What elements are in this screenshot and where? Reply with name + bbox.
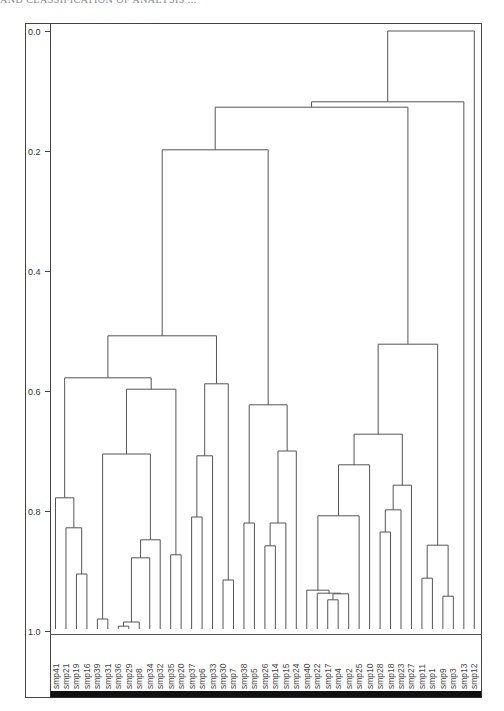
rug-bar [51,691,482,698]
leaf-label: smp36 [113,663,123,689]
leaf-label: smp12 [469,663,479,689]
leaf-label: smp9 [438,668,448,689]
dendrogram-chart: 0.00.20.40.60.81.0 smp41smp21smp19smp16s… [0,0,504,711]
merge-n17 [108,336,217,384]
merge-n13 [192,517,202,629]
leaf-label: smp27 [406,663,416,689]
merge-n16 [205,384,229,580]
leaf-label: smp6 [197,668,207,689]
dendrogram-tree [56,31,475,629]
leaf-label: smp7 [228,668,238,689]
leaf-label: smp14 [270,663,280,689]
leaf-label: smp38 [239,663,249,689]
leaf-label: smp30 [218,663,228,689]
merge-n14 [197,456,213,629]
merge-n29 [339,465,370,629]
y-tick-label: 0.2 [28,147,41,157]
merge-n34 [422,578,432,629]
leaf-label: smp11 [417,664,427,689]
leaf-label: smp10 [365,663,375,689]
merge-n10 [171,555,181,629]
leaf-label: smp31 [103,663,113,689]
leaf-label: smp18 [386,663,396,689]
merge-n21 [278,451,296,629]
leaf-label: smp2 [344,668,354,689]
leaf-label: smp28 [375,663,385,689]
merge-n6 [124,622,140,629]
merge-n2 [66,528,82,629]
leaf-label: smp40 [302,663,312,689]
leaf-label: smp33 [208,663,218,689]
merge-n3 [56,498,74,629]
leaf-label: smp23 [396,663,406,689]
leaf-label: smp29 [124,663,134,689]
leaf-label: smp34 [145,663,155,689]
leaf-label: smp41 [51,663,61,689]
leaf-labels: smp41smp21smp19smp16smp39smp31smp36smp29… [51,663,480,689]
leaf-label: smp19 [71,663,81,689]
y-tick-label: 0.8 [28,507,41,517]
merge-n22 [249,405,287,523]
y-tick-label: 0.6 [28,387,41,397]
leaf-label: smp20 [176,663,186,689]
merge-n23 [162,150,268,405]
leaf-label: smp39 [92,663,102,689]
leaf-label: smp1 [427,668,437,689]
leaf-label: smp25 [354,663,364,689]
merge-n1 [76,574,86,629]
merge-n12 [65,378,152,498]
merge-n33 [354,434,402,485]
leaf-label: smp21 [61,663,71,689]
merge-n24 [328,600,338,629]
leaf-label: smp26 [260,663,270,689]
leaf-label: smp17 [323,663,333,689]
merge-n15 [223,580,233,629]
merge-n38 [215,107,408,344]
merge-n27 [307,590,329,629]
y-tick-label: 1.0 [28,627,41,637]
leaf-label: smp22 [312,663,322,689]
plot-frame [26,24,482,698]
merge-n31 [385,510,401,629]
merge-n4 [97,619,107,629]
merge-n5 [118,626,128,629]
merge-n9 [103,454,151,619]
merge-n37 [378,344,437,545]
leaf-label: smp4 [333,668,343,689]
leaf-label: smp16 [82,663,92,689]
merge-n26 [317,593,341,629]
leaf-label: smp32 [155,663,165,689]
leaf-label: smp15 [281,663,291,689]
merge-n19 [265,546,275,629]
merge-n36 [427,545,448,596]
merge-n20 [270,523,286,629]
merge-n8 [141,540,161,629]
leaf-label: smp8 [134,668,144,689]
merge-n18 [244,523,254,629]
merge-n35 [443,596,453,629]
merge-n11 [126,389,175,555]
leaf-label: smp37 [187,663,197,689]
leaf-label: smp3 [448,668,458,689]
leaf-label: smp24 [291,663,301,689]
merge-n30 [380,532,390,629]
leaf-label: smp13 [459,663,469,689]
merge-n7 [131,558,149,629]
merge-n39 [312,102,464,629]
y-tick-label: 0.0 [28,27,41,37]
merge-n32 [393,485,411,629]
y-tick-label: 0.4 [28,267,41,277]
leaf-label: smp5 [249,668,259,689]
y-axis: 0.00.20.40.60.81.0 [28,27,51,637]
merge-n25 [333,594,349,629]
leaf-label: smp35 [166,663,176,689]
